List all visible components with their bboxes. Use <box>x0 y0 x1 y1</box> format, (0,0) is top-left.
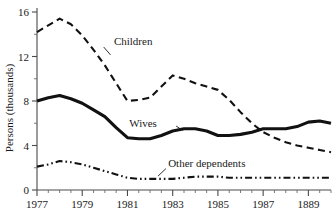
annotation-label-children: Children <box>114 35 153 47</box>
x-tick-label: 1983 <box>162 198 185 210</box>
line-chart: 0481216 1977197919811983198519871889 Chi… <box>0 0 334 220</box>
annotation-label-other-dependents: Other dependents <box>168 157 245 169</box>
y-tick-label: 16 <box>18 6 30 18</box>
y-tick-label: 12 <box>18 51 29 63</box>
chart-container: 0481216 1977197919811983198519871889 Chi… <box>0 0 334 220</box>
annotation-label-wives: Wives <box>129 117 157 129</box>
y-tick-label: 4 <box>24 140 30 152</box>
y-axis-title: Persons (thousands) <box>3 64 16 153</box>
x-tick-label: 1977 <box>26 198 49 210</box>
x-tick-label: 1987 <box>252 198 275 210</box>
chart-background <box>0 0 334 220</box>
y-tick-label: 8 <box>24 95 30 107</box>
x-tick-label: 1981 <box>116 198 138 210</box>
y-tick-label: 0 <box>24 184 30 196</box>
x-tick-label: 1985 <box>207 198 230 210</box>
x-tick-label: 1979 <box>71 198 94 210</box>
x-tick-label: 1889 <box>297 198 320 210</box>
